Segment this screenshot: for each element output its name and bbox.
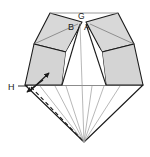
figure-container: G B A H <box>0 0 150 157</box>
vertex-label-h: H <box>8 82 15 92</box>
right-wing-lower-panel <box>102 44 143 85</box>
vertex-label-g: G <box>78 11 85 21</box>
left-wing-lower-panel <box>25 44 66 85</box>
geometric-figure: G B A H <box>0 0 150 157</box>
vertex-label-a: A <box>84 22 90 32</box>
vertex-label-b: B <box>68 22 74 32</box>
